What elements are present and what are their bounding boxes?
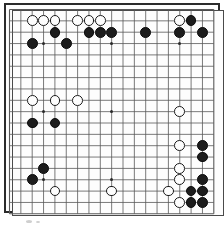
- black-stone[interactable]: [95, 27, 106, 38]
- black-stone[interactable]: [84, 27, 95, 38]
- black-stone[interactable]: [27, 118, 38, 129]
- black-stone[interactable]: [27, 174, 38, 185]
- screenshot-root: [0, 0, 224, 226]
- black-stone[interactable]: [174, 27, 185, 38]
- black-stone[interactable]: [61, 38, 72, 49]
- black-stone[interactable]: [197, 174, 208, 185]
- white-stone[interactable]: [174, 163, 185, 174]
- white-stone[interactable]: [72, 95, 83, 106]
- black-stone[interactable]: [197, 27, 208, 38]
- white-stone[interactable]: [174, 197, 185, 208]
- black-stone[interactable]: [38, 163, 49, 174]
- black-stone[interactable]: [197, 152, 208, 163]
- black-stone[interactable]: [106, 27, 117, 38]
- black-stone[interactable]: [50, 27, 61, 38]
- black-stone[interactable]: [197, 197, 208, 208]
- black-stone[interactable]: [197, 140, 208, 151]
- black-stone[interactable]: [140, 27, 151, 38]
- white-stone[interactable]: [27, 15, 38, 26]
- white-stone[interactable]: [27, 95, 38, 106]
- scan-speckle: [36, 221, 40, 223]
- white-stone[interactable]: [95, 15, 106, 26]
- scan-speckle: [26, 220, 32, 223]
- white-stone[interactable]: [50, 95, 61, 106]
- black-stone[interactable]: [27, 38, 38, 49]
- white-stone[interactable]: [163, 186, 174, 197]
